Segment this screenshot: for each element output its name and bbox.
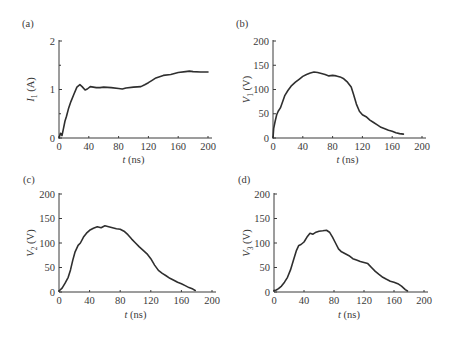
- y-axis-label: V3 (V): [241, 229, 255, 257]
- x-tick-label: 160: [170, 141, 186, 152]
- x-tick-label: 200: [416, 295, 432, 306]
- x-tick-label: 80: [115, 295, 126, 306]
- y-tick-label: 0: [265, 287, 270, 298]
- x-tick-label: 120: [355, 141, 371, 152]
- panel-c: (c)05010015020004080120160200t (ns)V2 (V…: [23, 174, 220, 321]
- x-tick-label: 80: [327, 141, 338, 152]
- x-tick-label: 160: [384, 141, 400, 152]
- x-tick-label: 120: [356, 295, 372, 306]
- y-tick-label: 0: [50, 133, 55, 144]
- x-tick-label: 40: [84, 295, 95, 306]
- x-tick-label: 0: [271, 295, 276, 306]
- y-tick-label: 100: [254, 238, 270, 249]
- x-axis-label: t (ns): [123, 154, 145, 166]
- figure: (a)01204080120160200t (ns)I1 (A)(b)05010…: [0, 0, 451, 337]
- y-tick-label: 2: [50, 36, 55, 47]
- y-tick-label: 200: [254, 189, 270, 200]
- y-tick-label: 1: [50, 84, 55, 95]
- y-tick-label: 100: [39, 238, 55, 249]
- series-line-V2: [59, 226, 195, 291]
- panel-label: (d): [238, 174, 251, 186]
- x-tick-label: 80: [329, 295, 340, 306]
- y-tick-label: 150: [39, 213, 55, 224]
- x-axis-label: t (ns): [338, 309, 360, 321]
- y-tick-label: 50: [260, 262, 271, 273]
- x-tick-label: 40: [299, 295, 310, 306]
- panel-label: (c): [23, 174, 35, 186]
- x-tick-label: 0: [56, 141, 61, 152]
- x-tick-label: 80: [113, 141, 124, 152]
- y-tick-label: 150: [254, 213, 270, 224]
- x-tick-label: 200: [414, 141, 430, 152]
- y-tick-label: 50: [45, 262, 56, 273]
- panel-label: (a): [22, 18, 34, 30]
- y-tick-label: 200: [253, 36, 269, 47]
- x-tick-label: 0: [270, 141, 275, 152]
- panel-a: (a)01204080120160200t (ns)I1 (A): [22, 18, 216, 166]
- x-tick-label: 120: [143, 295, 159, 306]
- series-line-I1: [59, 71, 208, 138]
- x-tick-label: 0: [56, 295, 61, 306]
- x-tick-label: 160: [386, 295, 402, 306]
- y-tick-label: 0: [50, 287, 55, 298]
- y-tick-label: 200: [39, 189, 55, 200]
- series-line-V3: [274, 230, 408, 291]
- x-tick-label: 40: [84, 141, 95, 152]
- x-tick-label: 200: [204, 295, 220, 306]
- x-tick-label: 40: [298, 141, 309, 152]
- y-tick-label: 50: [259, 108, 270, 119]
- panel-label: (b): [236, 18, 249, 30]
- y-tick-label: 100: [253, 84, 269, 95]
- panel-b: (b)05010015020004080120160200t (ns)V1 (V…: [236, 18, 430, 166]
- x-tick-label: 160: [174, 295, 190, 306]
- x-tick-label: 200: [200, 141, 216, 152]
- x-axis-label: t (ns): [337, 154, 359, 166]
- y-axis-label: V2 (V): [25, 229, 39, 257]
- y-tick-label: 0: [264, 133, 269, 144]
- y-axis-label: I1 (A): [25, 77, 39, 103]
- y-tick-label: 150: [253, 60, 269, 71]
- x-tick-label: 120: [141, 141, 157, 152]
- panel-d: (d)05010015020004080120160200t (ns)V3 (V…: [238, 174, 432, 321]
- series-line-V1: [273, 72, 403, 138]
- x-axis-label: t (ns): [125, 309, 147, 321]
